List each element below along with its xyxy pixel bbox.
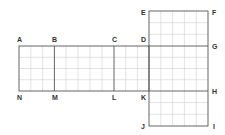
label-J: J <box>141 123 145 130</box>
label-N: N <box>17 94 22 101</box>
label-I: I <box>213 123 215 130</box>
label-C: C <box>112 36 117 43</box>
label-E: E <box>141 9 146 16</box>
cuboid-net-diagram: A B C D E F G H I J K L M N <box>0 0 225 135</box>
grid-lines <box>19 11 208 126</box>
label-B: B <box>52 36 57 43</box>
label-F: F <box>212 9 217 16</box>
label-M: M <box>52 94 58 101</box>
label-H: H <box>212 88 217 95</box>
label-G: G <box>212 43 218 50</box>
label-L: L <box>112 94 117 101</box>
label-D: D <box>141 36 146 43</box>
label-A: A <box>17 36 22 43</box>
label-K: K <box>141 94 146 101</box>
vertex-labels: A B C D E F G H I J K L M N <box>17 9 218 130</box>
